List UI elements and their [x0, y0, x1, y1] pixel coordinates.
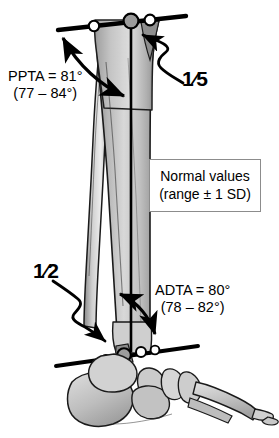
adta-range: (78 – 82°) — [155, 299, 230, 316]
foot-skeleton — [68, 354, 279, 426]
joint-marker-medial — [89, 21, 99, 31]
ppta-annotation: PPTA = 81° (77 – 84°) — [8, 68, 82, 102]
one-half-label: 1⁄2 — [33, 259, 58, 283]
adta-value: ADTA = 80° — [155, 282, 230, 298]
one-fifth-label: 1⁄5 — [182, 67, 207, 91]
tibia-alignment-figure: PPTA = 81° (77 – 84°) ADTA = 80° (78 – 8… — [0, 0, 279, 438]
adta-annotation: ADTA = 80° (78 – 82°) — [155, 282, 230, 316]
ankle-marker-lateral — [136, 347, 146, 357]
joint-marker-lateral — [145, 15, 156, 26]
ppta-range: (77 – 84°) — [8, 85, 82, 102]
ppta-value: PPTA = 81° — [8, 68, 82, 84]
normal-values-title: Normal values — [160, 168, 249, 184]
normal-values-subtitle: (range ± 1 SD) — [159, 186, 251, 202]
anatomy-illustration — [0, 0, 279, 438]
normal-values-box: Normal values (range ± 1 SD) — [149, 159, 261, 212]
joint-marker-center — [124, 14, 139, 29]
ankle-marker-far-lateral — [151, 346, 160, 355]
